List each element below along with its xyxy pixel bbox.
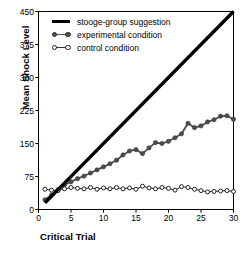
data-point-experimental	[95, 168, 99, 172]
data-point-experimental	[140, 152, 144, 156]
data-point-control	[232, 189, 236, 193]
data-point-experimental	[127, 149, 131, 153]
data-point-experimental	[192, 126, 196, 130]
data-point-control	[89, 186, 93, 190]
data-point-control	[43, 187, 47, 191]
data-point-experimental	[205, 120, 209, 124]
data-point-control	[219, 189, 223, 193]
data-point-experimental	[121, 153, 125, 157]
data-point-control	[121, 187, 125, 191]
legend-label-experimental: experimental condition	[77, 29, 162, 41]
data-point-control	[167, 186, 171, 190]
data-point-experimental	[186, 121, 190, 125]
legend-key-thick-line-icon	[50, 16, 72, 28]
legend-item-experimental: experimental condition	[50, 28, 210, 41]
data-point-experimental	[75, 177, 79, 181]
legend-key-open-circle-icon	[50, 42, 72, 54]
data-point-experimental	[199, 124, 203, 128]
data-point-control	[147, 186, 151, 190]
data-point-control	[173, 188, 177, 192]
data-point-control	[199, 189, 203, 193]
data-point-control	[102, 186, 106, 190]
legend-label-control: control condition	[77, 42, 139, 54]
data-point-control	[63, 187, 67, 191]
data-point-control	[115, 186, 119, 190]
data-point-control	[82, 187, 86, 191]
data-point-experimental	[134, 148, 138, 152]
data-point-control	[154, 187, 158, 191]
data-point-control	[128, 186, 132, 190]
data-point-experimental	[231, 117, 235, 121]
data-point-experimental	[82, 174, 86, 178]
data-point-experimental	[114, 158, 118, 162]
data-point-control	[95, 187, 99, 191]
data-point-experimental	[173, 136, 177, 140]
data-point-control	[108, 187, 112, 191]
data-point-control	[134, 187, 138, 191]
legend-key-filled-circle-icon	[50, 29, 72, 41]
legend-item-stooge: stooge-group suggestion	[50, 15, 210, 28]
data-point-experimental	[88, 171, 92, 175]
data-point-experimental	[160, 141, 164, 145]
data-point-experimental	[225, 114, 229, 118]
data-point-experimental	[153, 141, 157, 145]
data-point-control	[212, 189, 216, 193]
legend-item-control: control condition	[50, 41, 210, 54]
data-point-control	[186, 186, 190, 190]
data-point-experimental	[101, 165, 105, 169]
data-point-control	[76, 186, 80, 190]
data-point-experimental	[218, 114, 222, 118]
data-point-control	[69, 186, 73, 190]
data-point-control	[160, 186, 164, 190]
data-point-control	[180, 185, 184, 189]
data-point-experimental	[212, 118, 216, 122]
data-point-experimental	[147, 146, 151, 150]
chart-legend: stooge-group suggestion experimental con…	[50, 15, 210, 54]
data-point-experimental	[108, 162, 112, 166]
data-point-control	[141, 184, 145, 188]
legend-label-stooge: stooge-group suggestion	[77, 16, 171, 28]
chart-figure: Mean Shock Level Critical Trial 45037530…	[0, 0, 249, 253]
data-point-experimental	[179, 132, 183, 136]
data-point-experimental	[166, 139, 170, 143]
data-point-control	[50, 188, 54, 192]
data-point-control	[206, 190, 210, 194]
data-point-control	[193, 187, 197, 191]
data-point-control	[225, 189, 229, 193]
